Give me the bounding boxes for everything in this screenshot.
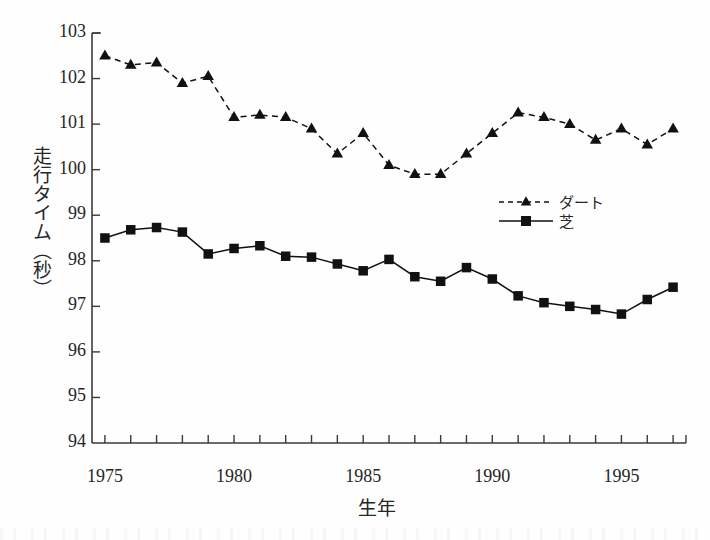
data-point-marker xyxy=(667,122,679,132)
scan-noise-artifact xyxy=(0,528,710,540)
axis-lines xyxy=(92,33,686,443)
data-point-marker xyxy=(100,233,110,243)
data-point-marker xyxy=(565,302,575,312)
data-point-marker xyxy=(668,282,678,292)
data-point-marker xyxy=(564,118,576,128)
data-point-marker xyxy=(178,227,188,237)
data-point-marker xyxy=(203,249,213,259)
data-point-marker xyxy=(202,70,214,80)
data-point-marker xyxy=(436,277,446,287)
data-point-marker xyxy=(333,259,343,269)
data-point-marker xyxy=(461,148,473,158)
x-axis-title-text: 生年 xyxy=(358,498,396,519)
data-point-marker xyxy=(280,111,292,121)
data-point-marker xyxy=(384,255,394,265)
chart-legend: ダート 芝 xyxy=(498,192,604,230)
x-axis-title: 生年 xyxy=(0,493,710,520)
data-point-marker xyxy=(151,56,163,66)
data-point-marker xyxy=(487,127,499,137)
data-point-marker xyxy=(488,274,498,284)
data-point-marker xyxy=(255,241,265,251)
data-point-marker xyxy=(409,168,421,178)
plot-area xyxy=(0,0,710,540)
data-point-marker xyxy=(307,252,317,262)
data-point-marker xyxy=(357,127,369,137)
data-point-marker xyxy=(306,122,318,132)
data-point-marker xyxy=(152,223,162,233)
data-series-layer xyxy=(99,50,679,319)
data-point-marker xyxy=(616,122,628,132)
legend-marker-triangle-dashed-icon xyxy=(498,193,554,211)
data-point-marker xyxy=(281,251,291,261)
legend-item-turf: 芝 xyxy=(498,211,604,230)
data-point-marker xyxy=(512,107,524,117)
data-point-marker xyxy=(617,309,627,319)
data-point-marker xyxy=(228,111,240,121)
data-point-marker xyxy=(410,272,420,282)
data-point-marker xyxy=(643,295,653,305)
data-point-marker xyxy=(383,159,395,169)
data-point-marker xyxy=(332,148,344,158)
legend-label-dirt: ダート xyxy=(559,191,604,212)
data-point-marker xyxy=(358,266,368,276)
data-point-marker xyxy=(539,298,549,308)
data-point-marker xyxy=(591,305,601,315)
data-point-marker xyxy=(513,291,523,301)
axis-tick-marks xyxy=(92,33,673,443)
data-point-marker xyxy=(642,138,654,148)
legend-item-dirt: ダート xyxy=(498,192,604,211)
data-point-marker xyxy=(462,263,472,273)
data-point-marker xyxy=(229,244,239,254)
data-point-marker xyxy=(177,77,189,87)
data-point-marker xyxy=(435,168,447,178)
data-point-marker xyxy=(126,225,136,235)
data-point-marker xyxy=(254,109,266,119)
legend-label-turf: 芝 xyxy=(559,210,574,231)
data-point-marker xyxy=(99,50,111,60)
chart-figure: 走行タイム（秒） 949596979899100101102103 197519… xyxy=(0,0,710,540)
legend-marker-square-solid-icon xyxy=(498,212,554,230)
